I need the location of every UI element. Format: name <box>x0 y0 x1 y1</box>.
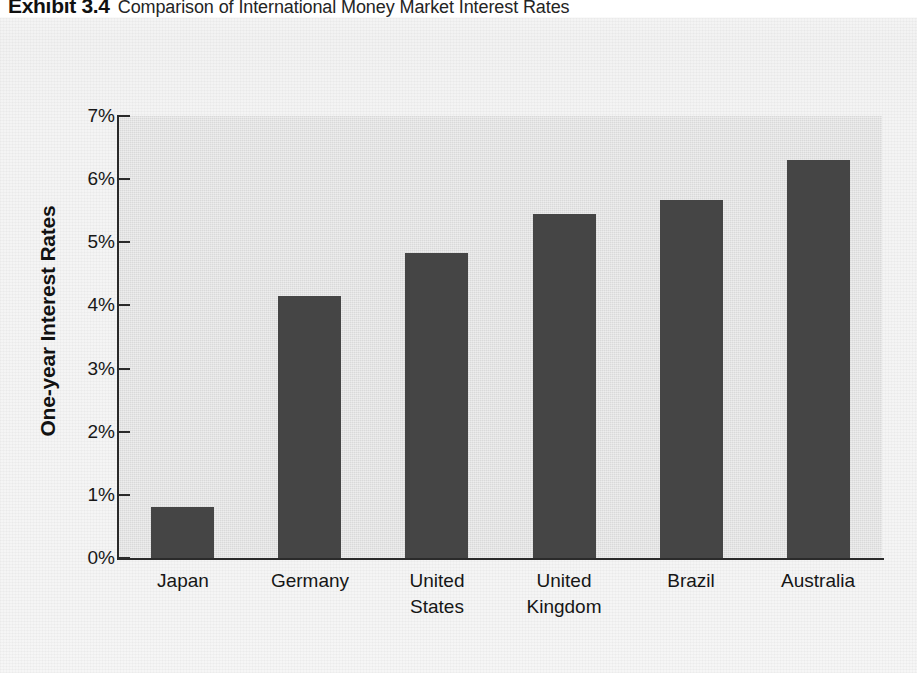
x-axis-label: Japan <box>117 568 249 594</box>
x-axis-label: UnitedKingdom <box>498 568 630 620</box>
figure-page: Exhibit 3.4Comparison of International M… <box>0 0 917 673</box>
y-tick-label: 0% <box>55 548 115 567</box>
y-tick-mark <box>119 241 130 243</box>
y-tick-label-text: 7% <box>63 106 115 125</box>
y-tick-mark <box>119 494 130 496</box>
y-tick-mark <box>119 557 130 559</box>
y-tick-label: 6% <box>55 169 115 188</box>
y-tick-mark <box>119 304 130 306</box>
y-tick-label: 2% <box>55 422 115 441</box>
x-axis-label-line: United <box>371 568 503 594</box>
x-axis-label-line: Kingdom <box>498 594 630 620</box>
y-axis-title: One-year Interest Rates <box>36 191 60 451</box>
x-axis-label-line: Australia <box>752 568 884 594</box>
x-axis-label-line: United <box>498 568 630 594</box>
y-tick-label: 1% <box>55 485 115 504</box>
y-tick-label-text: 4% <box>63 295 115 314</box>
bar <box>151 507 214 558</box>
y-tick-mark <box>119 178 130 180</box>
exhibit-number: Exhibit 3.4 <box>8 0 110 17</box>
bar <box>533 214 596 558</box>
x-axis-label-line: Germany <box>244 568 376 594</box>
bar <box>405 253 468 558</box>
y-tick-label: 7% <box>55 106 115 125</box>
y-tick-label-text: 2% <box>63 422 115 441</box>
exhibit-caption: Exhibit 3.4Comparison of International M… <box>8 0 569 19</box>
bar-chart: 0%1%2%3%4%5%6%7% One-year Interest Rates… <box>0 24 917 624</box>
x-axis-label: UnitedStates <box>371 568 503 620</box>
y-tick-label-text: 5% <box>63 232 115 251</box>
exhibit-title: Comparison of International Money Market… <box>118 0 570 17</box>
x-axis-label-line: Brazil <box>625 568 757 594</box>
bar <box>278 296 341 558</box>
y-tick-mark <box>119 368 130 370</box>
x-axis-line <box>117 558 884 560</box>
y-tick-label: 5% <box>55 232 115 251</box>
y-tick-label: 4% <box>55 295 115 314</box>
y-tick-label-text: 3% <box>63 359 115 378</box>
plot-area <box>119 116 882 558</box>
y-tick-mark <box>119 115 130 117</box>
x-axis-label: Brazil <box>625 568 757 594</box>
y-tick-mark <box>119 431 130 433</box>
bar <box>787 160 850 558</box>
bar <box>660 200 723 558</box>
x-axis-label-line: Japan <box>117 568 249 594</box>
x-axis-label: Germany <box>244 568 376 594</box>
y-tick-label-text: 1% <box>63 485 115 504</box>
y-tick-label-text: 0% <box>63 548 115 567</box>
x-axis-label-line: States <box>371 594 503 620</box>
y-tick-label: 3% <box>55 359 115 378</box>
y-tick-label-text: 6% <box>63 169 115 188</box>
x-axis-label: Australia <box>752 568 884 594</box>
